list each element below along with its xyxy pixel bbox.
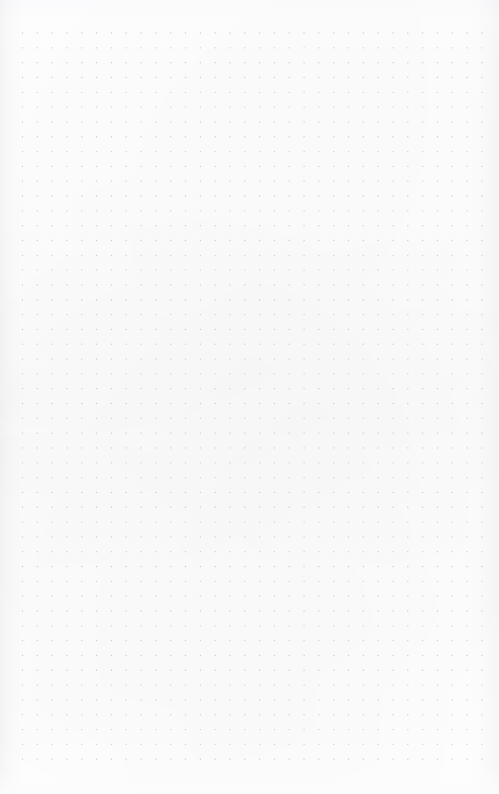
dot-grid-pattern xyxy=(0,0,499,794)
dot-grid-svg xyxy=(0,0,499,794)
dot-grid-page xyxy=(0,0,499,794)
